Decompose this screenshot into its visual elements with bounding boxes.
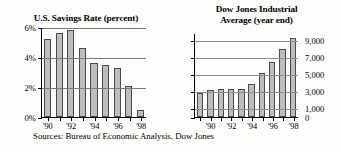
gridline (42, 88, 146, 89)
gridline (195, 92, 298, 93)
x-axis-tick (130, 117, 131, 121)
savings-rate-chart-title: U.S. Savings Rate (percent) (0, 13, 172, 24)
x-axis-label: '98 (136, 122, 146, 131)
bar (207, 90, 213, 117)
gridline (195, 75, 298, 76)
bar (90, 63, 97, 117)
bar (248, 84, 254, 117)
bar (125, 86, 132, 118)
x-axis-tick (211, 117, 212, 121)
x-axis-tick (231, 117, 232, 121)
bar (56, 33, 63, 117)
x-axis-label: '92 (226, 122, 236, 131)
x-axis-tick (263, 117, 264, 121)
x-axis-label: '90 (43, 122, 53, 131)
bar (114, 68, 121, 118)
dow-jones-panel: Dow Jones Industrial Average (year end) … (172, 0, 341, 128)
y-axis-tick (191, 58, 195, 59)
x-axis-tick (106, 117, 107, 121)
savings-rate-and-dow-jones-figure: U.S. Savings Rate (percent) '90'92'94'96… (0, 0, 341, 152)
gridline (42, 58, 146, 59)
bar-slot (88, 28, 100, 117)
y-axis-label: 0 (305, 114, 309, 123)
x-axis-label: '96 (268, 122, 278, 131)
x-axis-tick (221, 117, 222, 121)
y-axis-label: 9,000 (305, 37, 324, 46)
y-axis-label: 6% (25, 24, 36, 33)
bar-slot (135, 28, 147, 117)
bar-slot (123, 28, 135, 117)
y-axis-tick (38, 28, 42, 29)
y-axis-tick (191, 92, 195, 93)
x-axis-label: '94 (247, 122, 257, 131)
x-axis-label: '98 (289, 122, 299, 131)
gridline (195, 58, 298, 59)
savings-rate-bars (42, 28, 146, 117)
y-axis-tick (191, 41, 195, 42)
x-axis-tick (95, 117, 96, 121)
x-axis-label: '92 (66, 122, 76, 131)
x-axis-tick (48, 117, 49, 121)
y-axis-label: 7,000 (305, 54, 324, 63)
x-axis-tick (273, 117, 274, 121)
savings-rate-plot-area: '90'92'94'96'98 0%2%4%6% (41, 28, 146, 118)
dow-jones-chart-title: Dow Jones Industrial Average (year end) (172, 4, 341, 25)
bar (137, 110, 144, 118)
savings-rate-panel: U.S. Savings Rate (percent) '90'92'94'96… (0, 0, 172, 128)
x-axis-tick (283, 117, 284, 121)
y-axis-label: 2% (25, 84, 36, 93)
dow-jones-plot-area: '90'92'94'96'98 01,0003,0005,0007,0009,0… (194, 34, 298, 118)
gridline (42, 28, 146, 29)
y-axis-label: 1,000 (305, 105, 324, 114)
dow-jones-chart-title-line2: Average (year end) (172, 15, 341, 26)
bar-slot (65, 28, 77, 117)
x-axis-tick (60, 117, 61, 121)
y-axis-label: 4% (25, 54, 36, 63)
x-axis-tick (252, 117, 253, 121)
y-axis-label: 3,000 (305, 88, 324, 97)
x-axis-label: '94 (90, 122, 100, 131)
bar (279, 49, 285, 117)
y-axis-tick (191, 75, 195, 76)
x-axis-tick (294, 117, 295, 121)
y-axis-tick (191, 118, 195, 119)
bar-slot (42, 28, 54, 117)
bar-slot (100, 28, 112, 117)
bar-slot (111, 28, 123, 117)
bar (290, 38, 296, 117)
bar-slot (77, 28, 89, 117)
x-axis-tick (118, 117, 119, 121)
x-axis-tick (242, 117, 243, 121)
source-note: Sources: Bureau of Economic Analysis, Do… (33, 131, 214, 141)
y-axis-label: 5,000 (305, 71, 324, 80)
x-axis-tick (71, 117, 72, 121)
y-axis-tick (38, 58, 42, 59)
bar (44, 39, 51, 117)
x-axis-tick (141, 117, 142, 121)
y-axis-tick (38, 118, 42, 119)
y-axis-tick (191, 109, 195, 110)
gridline (195, 109, 298, 110)
dow-jones-chart-title-line1: Dow Jones Industrial (172, 4, 341, 15)
y-axis-tick (38, 88, 42, 89)
x-axis-tick (200, 117, 201, 121)
chart-panels: U.S. Savings Rate (percent) '90'92'94'96… (0, 0, 341, 128)
bar-slot (54, 28, 66, 117)
bar (67, 30, 74, 117)
gridline (195, 41, 298, 42)
x-axis-label: '96 (113, 122, 123, 131)
x-axis-tick (83, 117, 84, 121)
y-axis-label: 0% (25, 114, 36, 123)
bar (102, 65, 109, 118)
bar (197, 93, 203, 117)
x-axis-label: '90 (206, 122, 216, 131)
